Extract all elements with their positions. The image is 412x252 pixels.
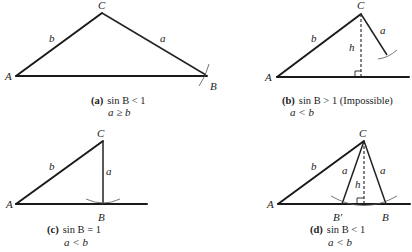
ambiguous-case-diagram: A C b a B (a)sin B < 1 a ≥ b A C b h a (…	[0, 0, 412, 252]
panel-d-relation: a < b	[328, 236, 352, 248]
panel-d-caption: (d)sin B < 1	[310, 224, 365, 236]
panel-a-vertex-C: C	[98, 0, 106, 11]
panel-c-caption: (c)sin B = 1	[47, 224, 101, 236]
panel-b-label-h: h	[349, 41, 355, 53]
panel-c-relation: a < b	[64, 236, 88, 248]
panel-b-vertex-A: A	[264, 71, 272, 83]
panel-d-vertex-B-prime: B′	[333, 211, 343, 223]
panel-c-vertex-A: A	[5, 198, 13, 210]
panel-d-label-b: b	[311, 160, 317, 172]
panel-d-label-a-left: a	[342, 164, 348, 176]
panel-a: A C b a B (a)sin B < 1 a ≥ b	[4, 0, 217, 118]
panel-c-side-b	[16, 141, 103, 204]
panel-a-relation: a ≥ b	[108, 106, 131, 118]
panel-a-side-b	[16, 13, 102, 76]
panel-d-side-b	[278, 141, 364, 204]
panel-a-vertex-B: B	[210, 80, 217, 92]
panel-b: A C b h a (b)sin B > 1 (Impossible) a < …	[264, 0, 409, 118]
panel-c-label-a: a	[106, 165, 112, 177]
panel-b-label-b: b	[311, 32, 317, 44]
panel-c-label-b: b	[49, 160, 55, 172]
panel-d: A C b a a h B′ B (d)sin B < 1 a < b	[266, 127, 410, 248]
panel-a-vertex-A: A	[4, 70, 12, 82]
panel-c-vertex-B: B	[98, 211, 105, 223]
panel-b-relation: a < b	[290, 106, 314, 118]
panel-d-label-h: h	[355, 178, 361, 190]
panel-d-label-a-right: a	[380, 164, 386, 176]
panel-d-vertex-A: A	[266, 198, 274, 210]
panel-d-vertex-C: C	[359, 127, 367, 139]
panel-a-side-a	[102, 13, 206, 75]
panel-a-label-b: b	[49, 32, 55, 44]
panel-d-vertex-B: B	[382, 211, 389, 223]
panel-b-label-a: a	[380, 24, 386, 36]
panel-b-vertex-C: C	[357, 0, 365, 11]
panel-c: A C b a B (c)sin B = 1 a < b	[5, 127, 147, 248]
panel-a-label-a: a	[160, 32, 166, 44]
panel-c-vertex-C: C	[97, 127, 105, 139]
